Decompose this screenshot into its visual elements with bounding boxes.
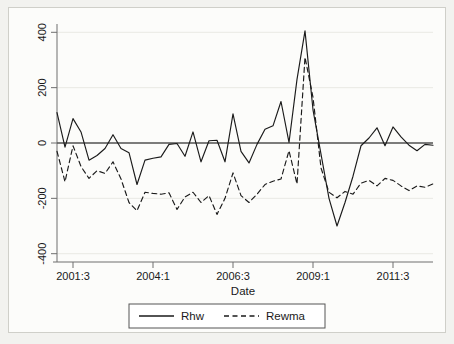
x-axis-title: Date [231,285,255,297]
figure-canvas: 4002000-200-400 2001:32004:12006:32009:1… [0,0,454,344]
legend-label-rewma: Rewma [266,310,306,322]
y-tick-label: 400 [36,23,48,41]
x-tick-label: 2011:3 [377,270,410,282]
data-series-group [57,31,433,226]
x-tick-marks [73,262,393,268]
x-tick-label: 2009:1 [296,270,330,282]
chart-svg: 4002000-200-400 2001:32004:12006:32009:1… [9,8,445,332]
y-tick-labels: 4002000-200-400 [36,23,48,265]
legend: Rhw Rewma [129,304,325,328]
y-tick-label: 0 [36,140,48,146]
x-tick-labels: 2001:32004:12006:32009:12011:3 [56,270,409,282]
x-tick-label: 2006:3 [216,270,250,282]
x-tick-label: 2001:3 [56,270,90,282]
x-tick-label: 2004:1 [136,270,170,282]
y-tick-label: 200 [36,78,48,96]
y-tick-label: -400 [36,243,48,265]
y-tick-label: -200 [36,187,48,209]
x-axis: 2001:32004:12006:32009:12011:3 [53,262,433,282]
y-axis: 4002000-200-400 [36,23,57,265]
legend-label-rhw: Rhw [181,310,205,322]
y-tick-marks [51,32,57,253]
series-line-rhw [57,31,433,226]
figure-plot-frame: 4002000-200-400 2001:32004:12006:32009:1… [8,7,446,333]
